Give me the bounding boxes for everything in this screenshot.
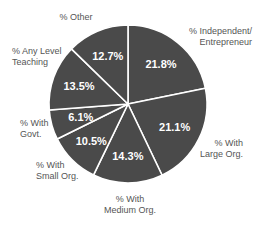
label-medium-line2: Medium Org.: [95, 205, 165, 216]
slice-value-label: 14.3%: [112, 150, 143, 162]
slice-value-label: 10.5%: [76, 135, 107, 147]
label-independent: % Independent/ Entrepreneur: [170, 26, 252, 48]
slice-value-label: 21.8%: [145, 58, 176, 70]
label-other: % Other: [56, 12, 96, 23]
label-teaching: % Any Level Teaching: [12, 46, 62, 68]
label-govt: % With Govt.: [20, 118, 50, 140]
label-independent-line1: % Independent/: [170, 26, 252, 37]
label-medium-line1: % With: [95, 194, 165, 205]
label-medium: % With Medium Org.: [95, 194, 165, 216]
label-teaching-line1: % Any Level: [12, 46, 62, 57]
label-large-line1: % With: [190, 138, 243, 149]
slice-value-label: 13.5%: [63, 80, 94, 92]
slice-value-label: 21.1%: [159, 121, 190, 133]
label-large: % With Large Org.: [190, 138, 243, 160]
label-small-line2: Small Org.: [36, 171, 86, 182]
slice-value-label: 12.7%: [92, 50, 123, 62]
label-small-line1: % With: [36, 160, 86, 171]
label-independent-line2: Entrepreneur: [170, 37, 252, 48]
label-govt-line1: % With: [20, 118, 50, 129]
label-teaching-line2: Teaching: [12, 57, 62, 68]
label-large-line2: Large Org.: [190, 149, 243, 160]
slice-value-label: 6.1%: [68, 111, 93, 123]
label-govt-line2: Govt.: [20, 129, 50, 140]
label-small: % With Small Org.: [36, 160, 86, 182]
label-other-text: % Other: [59, 12, 92, 22]
